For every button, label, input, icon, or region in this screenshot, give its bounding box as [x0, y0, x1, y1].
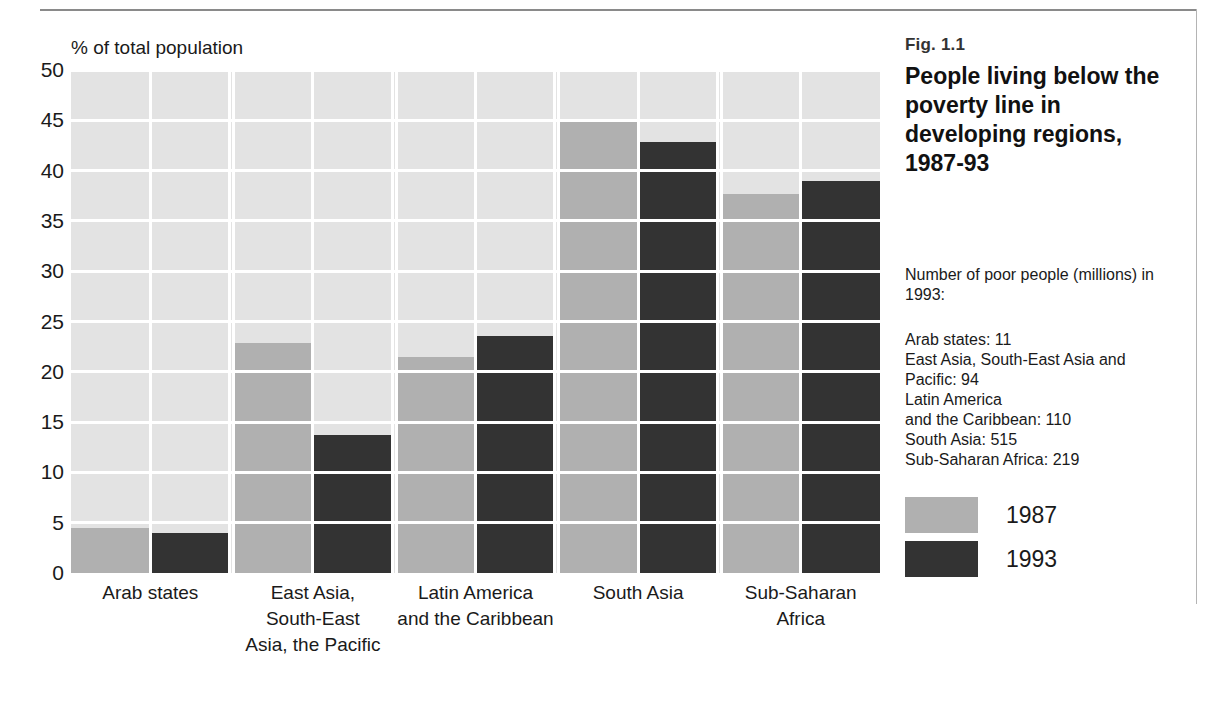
legend-item-1987[interactable]: 1987 [905, 493, 1187, 537]
figure-number: Fig. 1.1 [905, 35, 965, 55]
vertical-gridline [391, 70, 394, 573]
y-axis-tick-label: 5 [20, 512, 64, 533]
x-axis-category-labels: Arab statesEast Asia, South-East Asia, t… [71, 580, 880, 690]
vertical-gridline [474, 70, 477, 573]
vertical-gridline [557, 70, 560, 573]
y-axis-tick-label: 30 [20, 260, 64, 281]
plot-area [71, 70, 880, 573]
y-axis-tick-label: 40 [20, 160, 64, 181]
vertical-gridline [395, 70, 398, 573]
vertical-gridline [228, 70, 231, 573]
poor-people-values: Arab states: 11 East Asia, South-East As… [905, 330, 1187, 470]
bar-1993-group-3 [638, 142, 717, 573]
poor-people-heading: Number of poor people (millions) in 1993… [905, 265, 1187, 305]
x-axis-label-2: Latin America and the Caribbean [396, 580, 555, 632]
bar-1987-group-3 [559, 122, 638, 573]
x-axis-label-1: East Asia, South-East Asia, the Pacific [234, 580, 393, 658]
bar-1993-group-4 [801, 181, 880, 573]
bar-1987-group-0 [71, 528, 150, 573]
vertical-gridline [149, 70, 152, 573]
y-axis-tick-label: 10 [20, 461, 64, 482]
vertical-gridline [799, 70, 802, 573]
bar-1993-group-1 [313, 435, 392, 573]
bar-1987-group-2 [396, 357, 475, 573]
vertical-gridline [720, 70, 723, 573]
chart-legend: 19871993 [905, 493, 1187, 581]
y-axis-tick-label: 35 [20, 210, 64, 231]
chart-area: % of total population 051015202530354045… [0, 0, 890, 703]
y-axis-tick-label: 45 [20, 109, 64, 130]
y-axis-tick-label: 0 [20, 562, 64, 583]
vertical-gridline [716, 70, 719, 573]
side-panel: Fig. 1.1 People living below the poverty… [905, 0, 1190, 703]
vertical-gridline [232, 70, 235, 573]
right-vertical-divider [1196, 9, 1197, 604]
bar-1993-group-0 [150, 533, 229, 573]
y-axis-title: % of total population [71, 37, 243, 59]
x-axis-label-3: South Asia [559, 580, 718, 606]
figure-title: People living below the poverty line in … [905, 62, 1183, 178]
x-axis-label-4: Sub-Saharan Africa [721, 580, 880, 632]
vertical-gridline [553, 70, 556, 573]
x-axis-label-0: Arab states [71, 580, 230, 606]
y-axis-tick-label: 20 [20, 361, 64, 382]
vertical-gridline [637, 70, 640, 573]
legend-swatch-1993 [905, 541, 978, 577]
y-axis-tick-labels: 05101520253035404550 [14, 70, 64, 573]
y-axis-tick-label: 15 [20, 411, 64, 432]
legend-label-1987: 1987 [1006, 502, 1057, 529]
figure-container: % of total population 051015202530354045… [0, 0, 1225, 703]
legend-label-1993: 1993 [1006, 546, 1057, 573]
bar-1987-group-1 [234, 343, 313, 573]
vertical-gridline [311, 70, 314, 573]
legend-swatch-1987 [905, 497, 978, 533]
legend-item-1993[interactable]: 1993 [905, 537, 1187, 581]
bar-1987-group-4 [721, 194, 800, 573]
y-axis-tick-label: 25 [20, 311, 64, 332]
y-axis-tick-label: 50 [20, 59, 64, 80]
